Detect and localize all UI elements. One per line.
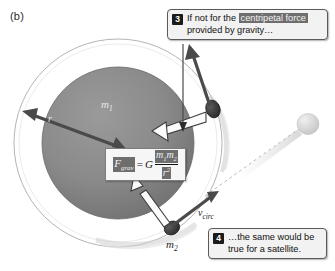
equation-fraction: m1m2 r2 <box>155 150 178 178</box>
equation-denominator: r2 <box>162 167 171 178</box>
equation-equals: = <box>137 158 143 170</box>
label-circular-velocity: vcirc <box>198 207 214 221</box>
callout-step-3: 3 If not for the centripetal force provi… <box>167 9 328 40</box>
callout-3-number: 3 <box>172 14 183 25</box>
escape-trajectory-dashed <box>205 128 300 196</box>
escape-trajectory-trail <box>238 132 300 178</box>
callout-4-number: 4 <box>213 233 224 244</box>
label-central-mass: m1 <box>101 98 113 113</box>
label-radius: r <box>48 113 52 124</box>
equation-numerator: m1m2 <box>155 150 178 163</box>
callout-3-highlight: centripetal force <box>239 13 308 23</box>
callout-3-text-before: If not for the <box>187 13 239 23</box>
gravitation-equation-box: Fgrav = G m1m2 r2 <box>105 148 186 181</box>
callout-3-text-after: provided by gravity… <box>187 25 273 35</box>
panel-label: (b) <box>10 10 24 22</box>
equation-lhs: Fgrav <box>113 157 135 172</box>
orbit-trail-lower <box>96 224 196 245</box>
physics-diagram-panel-b: (b) m1 r m2 vcirc Fgrav = G m1m2 r2 3 If… <box>0 0 335 271</box>
callout-step-4: 4 …the same would be true for a satellit… <box>208 228 327 259</box>
escaping-satellite <box>297 114 319 135</box>
equation-constant-g: G <box>145 158 153 170</box>
equation-fraction-bar <box>155 164 178 165</box>
upper-velocity-arrow <box>185 44 210 106</box>
gravitation-equation: Fgrav = G m1m2 r2 <box>113 150 178 178</box>
callout-4-text: …the same would be true for a satellite. <box>228 232 321 255</box>
callout-3-text: If not for the centripetal force provide… <box>187 13 322 36</box>
label-orbiting-mass: m2 <box>166 238 178 253</box>
